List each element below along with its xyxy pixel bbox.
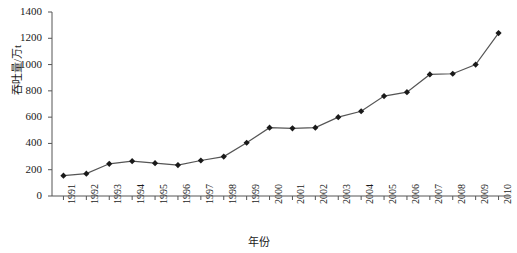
data-point-marker bbox=[83, 171, 89, 177]
data-point-marker bbox=[175, 162, 181, 168]
data-point-marker bbox=[244, 140, 250, 146]
line-chart: 吞吐量/万t 年份 0200400600800100012001400 1991… bbox=[0, 0, 517, 253]
data-point-marker bbox=[335, 114, 341, 120]
data-point-marker bbox=[289, 125, 295, 131]
data-point-marker bbox=[450, 71, 456, 77]
data-series bbox=[60, 30, 501, 179]
data-point-marker bbox=[198, 157, 204, 163]
data-point-marker bbox=[358, 108, 364, 114]
data-point-marker bbox=[266, 125, 272, 131]
data-point-marker bbox=[60, 173, 66, 179]
series-line bbox=[63, 33, 498, 176]
data-point-marker bbox=[381, 93, 387, 99]
plot-area bbox=[0, 0, 517, 253]
data-point-marker bbox=[129, 158, 135, 164]
data-point-marker bbox=[106, 161, 112, 167]
data-point-marker bbox=[152, 160, 158, 166]
axes bbox=[48, 12, 510, 200]
data-point-marker bbox=[221, 153, 227, 159]
data-point-marker bbox=[312, 125, 318, 131]
